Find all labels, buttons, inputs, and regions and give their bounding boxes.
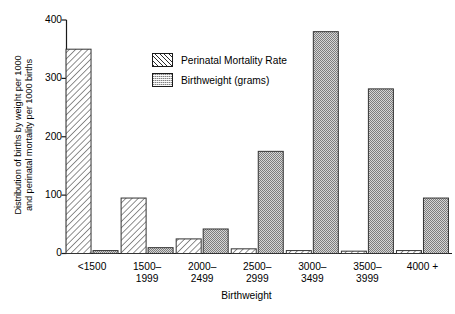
x-tick-label-2: 2000– 2499 <box>188 261 216 286</box>
bar <box>341 251 366 253</box>
dot-swatch-icon <box>152 73 173 87</box>
x-tick-label-6: 4000 + <box>407 261 438 273</box>
x-axis-title-text: Birthweight <box>221 290 271 301</box>
bar <box>176 239 201 254</box>
x-axis-title: Birthweight <box>0 290 455 301</box>
chart-legend: Perinatal Mortality Rate Birthweight (gr… <box>152 50 287 90</box>
bar <box>93 251 118 254</box>
legend-label-1: Birthweight (grams) <box>181 75 269 86</box>
bar <box>231 249 256 254</box>
bar <box>148 248 173 254</box>
bar <box>396 251 421 254</box>
x-tick-label-1: 1500– 1999 <box>133 261 161 286</box>
bar <box>368 89 393 254</box>
bar <box>203 229 228 254</box>
bar <box>66 49 91 253</box>
bar <box>286 251 311 254</box>
plot-area <box>0 0 455 314</box>
bar <box>423 198 448 253</box>
legend-item-birthweight-grams: Birthweight (grams) <box>152 70 287 90</box>
legend-item-perinatal-mortality-rate: Perinatal Mortality Rate <box>152 50 287 70</box>
legend-label-0: Perinatal Mortality Rate <box>181 55 287 66</box>
bar <box>121 198 146 253</box>
bar <box>258 151 283 253</box>
chart-figure: Distribution of births by weight per 100… <box>0 0 455 314</box>
x-tick-label-3: 2500– 2999 <box>243 261 271 286</box>
x-tick-label-0: <1500 <box>78 261 107 273</box>
bar <box>313 32 338 254</box>
hatch-swatch-icon <box>152 53 173 67</box>
x-tick-label-4: 3000– 3499 <box>298 261 326 286</box>
x-tick-label-5: 3500– 3999 <box>353 261 381 286</box>
